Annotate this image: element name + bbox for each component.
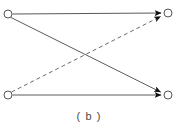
node-top-right[interactable] (164, 9, 172, 17)
node-bottom-left[interactable] (4, 91, 12, 99)
figure-caption: ( b ) (0, 109, 178, 123)
figure-container: ( b ) (0, 0, 178, 130)
node-bottom-right[interactable] (164, 91, 172, 99)
node-top-left[interactable] (4, 10, 12, 18)
edge-top-left-to-top-right (13, 13, 162, 14)
